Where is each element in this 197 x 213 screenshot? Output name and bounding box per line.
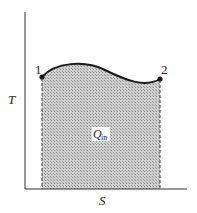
x-axis-label: S [99, 193, 106, 208]
point-1-label: 1 [35, 62, 42, 77]
point-2-label: 2 [161, 62, 168, 77]
area-label-subscript: in [101, 133, 107, 142]
y-axis-label: T [8, 92, 16, 107]
ts-diagram: 1 2 T S Q in [0, 0, 197, 213]
state-point-2 [157, 76, 162, 81]
